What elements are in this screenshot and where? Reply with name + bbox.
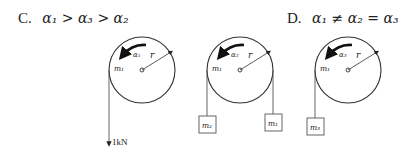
pulley-3-mass-label: m₁ [320, 64, 330, 73]
pulley-1: r α₁ m₁ 1kN [109, 37, 175, 147]
pulley-3: r α₃ m₁ m₃ [307, 37, 381, 135]
pulley-3-alpha-label: α₃ [339, 51, 347, 59]
pulley-diagrams: r α₁ m₁ 1kN r α₂ m₁ m₂ m₁ r α₃ m₁ m₃ [0, 0, 403, 154]
pulley-2-block-left-label: m₂ [202, 121, 212, 130]
pulley-2-alpha-label: α₂ [231, 51, 239, 59]
pulley-3-block-left-label: m₃ [310, 123, 320, 132]
pulley-2-mass-label: m₁ [212, 64, 222, 73]
pulley-1-radius-label: r [150, 50, 155, 60]
pulley-1-force-label: 1kN [112, 137, 128, 147]
pulley-1-mass-label: m₁ [114, 64, 124, 73]
pulley-1-alpha-label: α₁ [133, 51, 141, 59]
pulley-1-radius-arrow [142, 52, 171, 70]
pulley-3-radius-label: r [356, 50, 361, 60]
pulley-3-radius-arrow [348, 52, 377, 70]
pulley-2-radius-arrow [240, 52, 269, 70]
pulley-2-block-right-label: m₁ [268, 119, 278, 128]
pulley-2: r α₂ m₁ m₂ m₁ [199, 37, 282, 133]
pulley-2-radius-label: r [248, 50, 253, 60]
